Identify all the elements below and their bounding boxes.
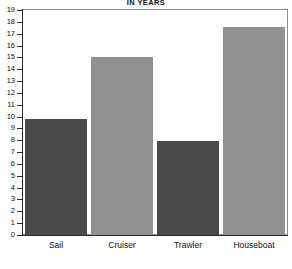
bar: [91, 57, 153, 235]
y-tick-label: 19: [0, 6, 15, 14]
y-tick-label: 11: [0, 101, 15, 109]
y-tick-label: 5: [0, 172, 15, 180]
x-tick-label: Sail: [23, 240, 89, 251]
chart-title: IN YEARS: [0, 0, 292, 7]
y-tick-label: 6: [0, 160, 15, 168]
y-tick-label: 17: [0, 30, 15, 38]
y-tick-label: 18: [0, 18, 15, 26]
x-axis-line: [22, 235, 288, 236]
y-tick-label: 14: [0, 65, 15, 73]
y-tick-label: 13: [0, 77, 15, 85]
y-tick-label: 3: [0, 195, 15, 203]
x-tick-label: Trawler: [155, 240, 221, 251]
y-tick-label: 0: [0, 231, 15, 239]
y-tick-label: 1: [0, 219, 15, 227]
y-tick-label: 15: [0, 53, 15, 61]
bar: [157, 141, 219, 235]
y-tick-mark: [17, 235, 23, 236]
bar: [223, 27, 285, 235]
y-tick-label: 7: [0, 148, 15, 156]
x-tick-label: Houseboat: [221, 240, 287, 251]
bars-layer: [23, 10, 287, 235]
y-tick-label: 8: [0, 136, 15, 144]
y-tick-label: 2: [0, 207, 15, 215]
y-tick-label: 9: [0, 124, 15, 132]
y-tick-label: 12: [0, 89, 15, 97]
y-tick-label: 16: [0, 42, 15, 50]
y-tick-label: 4: [0, 184, 15, 192]
bar: [25, 119, 87, 235]
bar-chart: IN YEARS 191817161514131211109876543210 …: [0, 0, 292, 269]
x-tick-label: Cruiser: [89, 240, 155, 251]
y-tick-label: 10: [0, 113, 15, 121]
